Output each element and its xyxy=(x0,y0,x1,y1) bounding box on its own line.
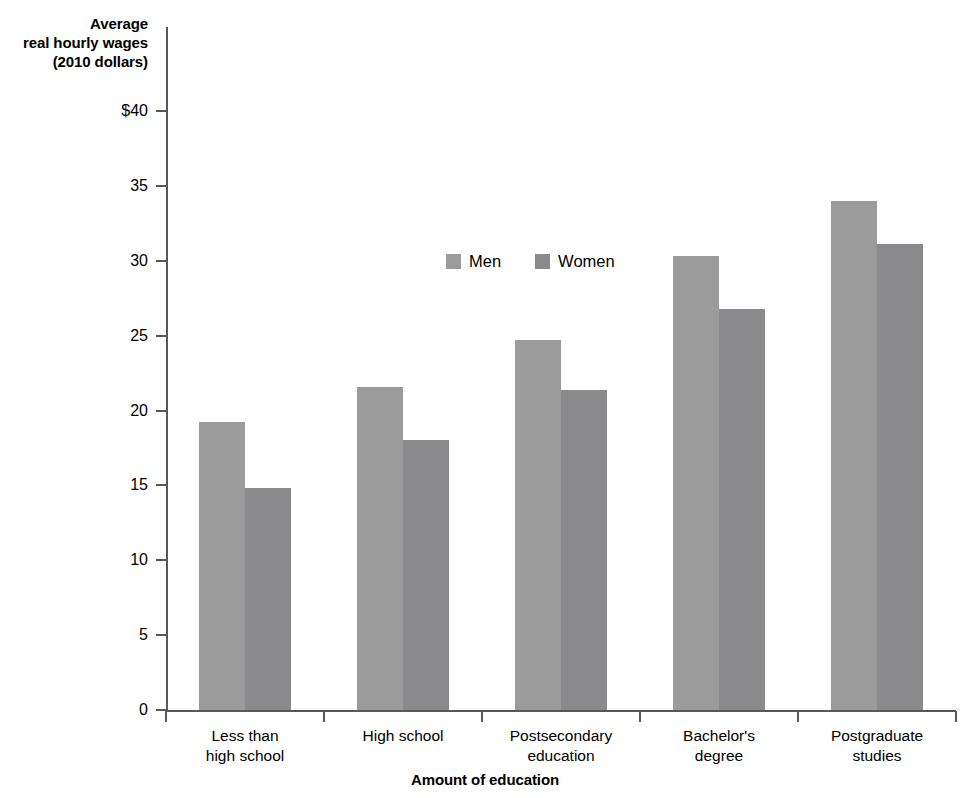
legend-item-women: Women xyxy=(535,253,615,269)
x-axis-category-label: Postsecondaryeducation xyxy=(482,726,640,766)
y-axis-tick xyxy=(156,110,167,112)
y-axis-tick-label: 0 xyxy=(88,702,148,718)
x-axis-title: Amount of education xyxy=(0,771,970,788)
bar-women-4 xyxy=(877,244,923,710)
bar-women-1 xyxy=(403,440,449,710)
x-axis-tick xyxy=(955,711,957,722)
x-axis-category-label: Bachelor'sdegree xyxy=(640,726,798,766)
y-axis-tick-label: 35 xyxy=(88,178,148,194)
y-axis-tick-label: 30 xyxy=(88,253,148,269)
bar-men-1 xyxy=(357,387,403,710)
legend-label-women: Women xyxy=(558,253,615,269)
y-axis-tick-label: 5 xyxy=(88,627,148,643)
bar-women-0 xyxy=(245,488,291,710)
y-axis-line xyxy=(166,27,168,712)
x-axis-category-label-line: Less than xyxy=(166,726,324,746)
legend: Men Women xyxy=(446,253,615,269)
y-axis-tick xyxy=(156,410,167,412)
y-axis-tick-label: 25 xyxy=(88,328,148,344)
y-axis-tick-label: 10 xyxy=(88,552,148,568)
x-axis-category-label-line: Bachelor's xyxy=(640,726,798,746)
x-axis-category-label-line: Postsecondary xyxy=(482,726,640,746)
x-axis-tick xyxy=(797,711,799,722)
bar-women-2 xyxy=(561,390,607,710)
x-axis-category-label-line: High school xyxy=(324,726,482,746)
y-axis-tick xyxy=(156,484,167,486)
y-axis-tick xyxy=(156,185,167,187)
legend-item-men: Men xyxy=(446,253,501,269)
x-axis-category-label-line: high school xyxy=(166,746,324,766)
x-axis-category-label: Less thanhigh school xyxy=(166,726,324,766)
y-axis-title-line-3: (2010 dollars) xyxy=(0,52,148,71)
y-axis-tick xyxy=(156,335,167,337)
x-axis-category-label: High school xyxy=(324,726,482,746)
y-axis-tick-label: 15 xyxy=(88,477,148,493)
legend-swatch-men-icon xyxy=(446,254,461,269)
x-axis-category-label-line: studies xyxy=(798,746,956,766)
y-axis-tick-label: 20 xyxy=(88,403,148,419)
y-axis-title-line-1: Average xyxy=(0,14,148,33)
x-axis-category-label-line: Postgraduate xyxy=(798,726,956,746)
legend-label-men: Men xyxy=(469,253,501,269)
bar-men-0 xyxy=(199,422,245,710)
x-axis-category-label-line: degree xyxy=(640,746,798,766)
x-axis-tick xyxy=(165,711,167,722)
x-axis-category-label-line: education xyxy=(482,746,640,766)
x-axis-tick xyxy=(639,711,641,722)
bar-chart: Average real hourly wages (2010 dollars)… xyxy=(0,0,970,798)
y-axis-title: Average real hourly wages (2010 dollars) xyxy=(0,14,148,71)
y-axis-tick xyxy=(156,260,167,262)
legend-swatch-women-icon xyxy=(535,254,550,269)
bar-women-3 xyxy=(719,309,765,710)
bar-men-2 xyxy=(515,340,561,710)
x-axis-tick xyxy=(323,711,325,722)
bar-men-4 xyxy=(831,201,877,710)
y-axis-title-line-2: real hourly wages xyxy=(0,33,148,52)
y-axis-tick xyxy=(156,634,167,636)
x-axis-tick xyxy=(481,711,483,722)
x-axis-line xyxy=(166,710,956,712)
x-axis-category-label: Postgraduatestudies xyxy=(798,726,956,766)
y-axis-tick-label: $40 xyxy=(88,103,148,119)
bar-men-3 xyxy=(673,256,719,710)
y-axis-tick xyxy=(156,559,167,561)
